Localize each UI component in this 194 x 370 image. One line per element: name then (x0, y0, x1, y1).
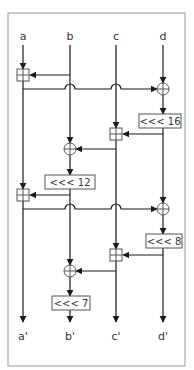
output-label-a: a' (18, 330, 28, 343)
rotate-box-7: <<< 7 (52, 296, 90, 310)
diagram-frame (8, 13, 185, 366)
add-op-icon (17, 69, 29, 81)
xor-op-icon (64, 143, 76, 155)
svg-text:<<< 7: <<< 7 (54, 298, 89, 309)
rotate-box-16: <<< 16 (139, 114, 181, 128)
svg-text:<<< 8: <<< 8 (147, 236, 182, 247)
branch-a-to-xor-d-2 (23, 204, 157, 209)
input-label-a: a (20, 30, 27, 43)
add-op-icon (110, 128, 122, 140)
rotate-box-8: <<< 8 (146, 234, 182, 248)
svg-text:<<< 12: <<< 12 (49, 177, 90, 188)
quarter-round-diagram: a b c d (0, 0, 194, 370)
add-op-icon (17, 189, 29, 201)
add-op-icon (110, 249, 122, 261)
input-label-c: c (113, 30, 119, 43)
rotate-box-12: <<< 12 (45, 175, 95, 189)
output-label-c: c' (111, 330, 120, 343)
input-label-b: b (67, 30, 74, 43)
output-label-d: d' (158, 330, 168, 343)
xor-op-icon (157, 203, 169, 215)
xor-op-icon (157, 83, 169, 95)
output-label-b: b' (65, 330, 75, 343)
input-label-d: d (160, 30, 167, 43)
branch-a-to-xor-d-1 (23, 84, 157, 89)
svg-text:<<< 16: <<< 16 (139, 116, 180, 127)
xor-op-icon (64, 265, 76, 277)
